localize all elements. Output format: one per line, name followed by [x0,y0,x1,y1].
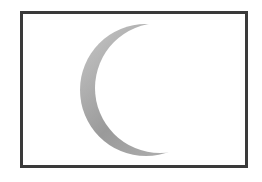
crescent-moon-icon [0,0,262,182]
